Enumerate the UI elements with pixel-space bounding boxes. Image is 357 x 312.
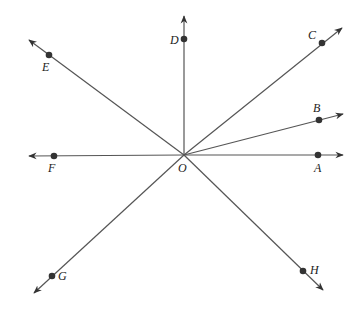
diagram-svg: ABCDEFGH O — [0, 0, 357, 312]
ray-oc — [184, 28, 342, 155]
origin-label-O: O — [178, 161, 187, 175]
points-group — [46, 36, 326, 280]
point-label-a: A — [313, 161, 322, 175]
point-label-e: E — [41, 60, 50, 74]
point-a — [315, 152, 322, 159]
rays-group — [29, 16, 343, 293]
point-label-f: F — [47, 161, 56, 175]
ray-oe — [29, 40, 184, 155]
point-e — [46, 52, 53, 59]
ray-og — [34, 155, 184, 293]
point-label-c: C — [308, 28, 317, 42]
point-f — [51, 153, 58, 160]
point-label-b: B — [313, 101, 321, 115]
point-label-h: H — [309, 263, 320, 277]
point-c — [319, 40, 326, 47]
point-label-g: G — [58, 269, 67, 283]
point-h — [300, 268, 307, 275]
point-d — [181, 36, 188, 43]
point-b — [316, 117, 323, 124]
point-g — [49, 273, 56, 280]
ray-diagram: ABCDEFGH O — [0, 0, 357, 312]
point-label-d: D — [169, 33, 179, 47]
